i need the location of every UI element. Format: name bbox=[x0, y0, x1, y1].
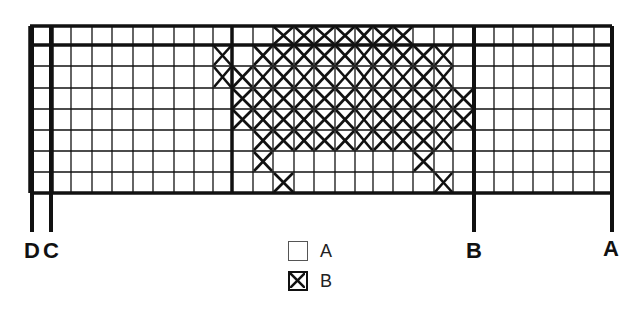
marker-label-c: C bbox=[43, 240, 59, 262]
empty-square-icon bbox=[288, 241, 308, 261]
legend-item-b: B bbox=[288, 268, 332, 294]
legend: A B bbox=[288, 238, 332, 298]
legend-label-b: B bbox=[320, 271, 332, 292]
marker-label-d: D bbox=[24, 240, 40, 262]
marker-label-a: A bbox=[603, 238, 619, 260]
marker-label-b: B bbox=[466, 240, 482, 262]
legend-item-a: A bbox=[288, 238, 332, 264]
legend-label-a: A bbox=[320, 241, 332, 262]
crossed-square-icon bbox=[288, 271, 308, 291]
